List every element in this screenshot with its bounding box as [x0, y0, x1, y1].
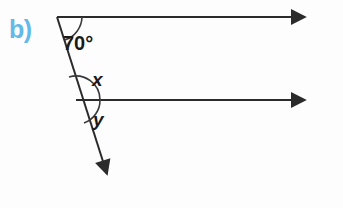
angle-label-70: 70°: [63, 33, 93, 53]
angle-label-x: x: [92, 70, 103, 89]
part-label-b: b): [9, 17, 32, 42]
geometry-figure: [0, 0, 343, 208]
angle-label-y: y: [93, 110, 104, 129]
diagram-canvas: b) 70° x y: [0, 0, 343, 208]
